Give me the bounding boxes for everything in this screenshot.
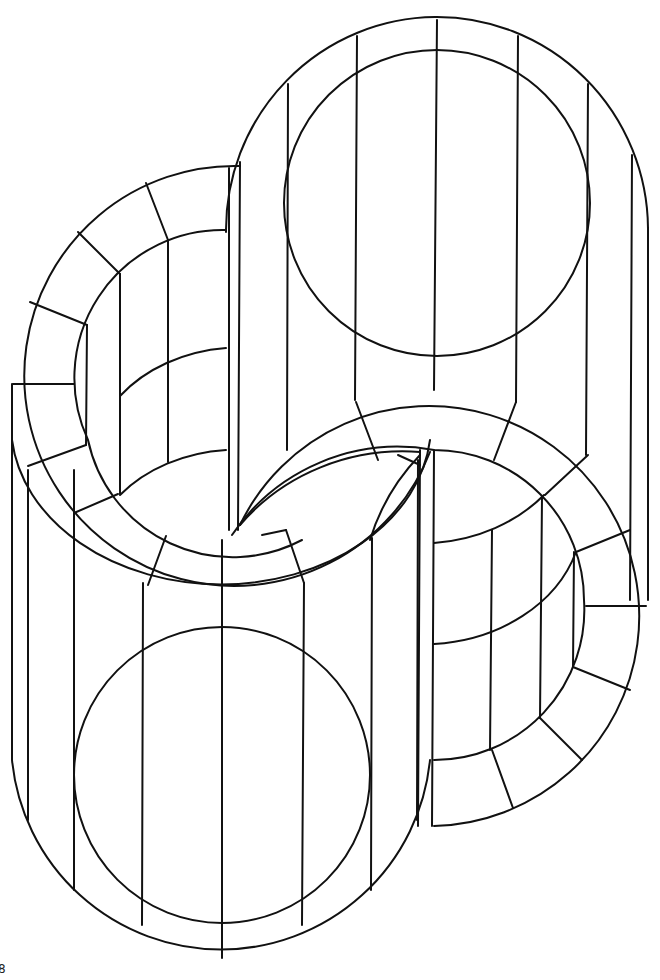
left-ring-inner-arc [74,230,302,557]
line-art-drawing [0,0,660,980]
left-ring-outer-arc [24,166,430,586]
page-number: 8 [0,962,6,976]
right-ring-outer-arc [240,406,639,826]
